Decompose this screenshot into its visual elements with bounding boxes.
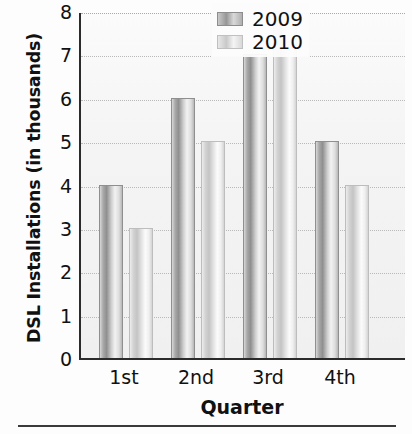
bar-2010-3rd bbox=[273, 11, 297, 358]
legend-label-2010: 2010 bbox=[252, 32, 303, 52]
legend-label-2009: 2009 bbox=[252, 9, 303, 29]
x-tick-label-2nd: 2nd bbox=[156, 366, 236, 388]
bar-2009-4th bbox=[315, 141, 339, 358]
bar-group-2nd bbox=[171, 13, 225, 358]
y-tick-label: 0 bbox=[38, 350, 72, 369]
y-tick-label: 3 bbox=[38, 220, 72, 239]
y-tick-label: 7 bbox=[38, 46, 72, 65]
y-tick-label: 8 bbox=[38, 3, 72, 22]
bar-group-4th bbox=[315, 13, 369, 358]
y-tick-label: 1 bbox=[38, 307, 72, 326]
plot-area bbox=[79, 13, 405, 360]
bar-2010-4th bbox=[345, 185, 369, 359]
bottom-divider bbox=[18, 425, 396, 427]
bar-chart-figure: DSL Installations (in thousands) 8765432… bbox=[0, 0, 412, 434]
y-tick-label: 5 bbox=[38, 133, 72, 152]
bar-2009-2nd bbox=[171, 98, 195, 358]
bar-2009-3rd bbox=[243, 54, 267, 358]
y-tick-label: 6 bbox=[38, 90, 72, 109]
y-tick-label: 4 bbox=[38, 177, 72, 196]
bar-group-3rd bbox=[243, 13, 297, 358]
x-tick-label-3rd: 3rd bbox=[228, 366, 308, 388]
legend-swatch-2009 bbox=[217, 12, 243, 26]
legend-item-2009: 2009 bbox=[217, 7, 303, 30]
bar-2009-1st bbox=[99, 185, 123, 359]
legend-item-2010: 2010 bbox=[217, 30, 303, 53]
legend-swatch-2010 bbox=[217, 35, 243, 49]
x-tick-label-1st: 1st bbox=[84, 366, 164, 388]
bar-group-1st bbox=[99, 13, 153, 358]
x-tick-label-4th: 4th bbox=[300, 366, 380, 388]
legend: 20092010 bbox=[212, 3, 309, 57]
x-axis-title: Quarter bbox=[79, 396, 405, 418]
y-tick-label: 2 bbox=[38, 263, 72, 282]
bar-2010-2nd bbox=[201, 141, 225, 358]
bar-2010-1st bbox=[129, 228, 153, 358]
